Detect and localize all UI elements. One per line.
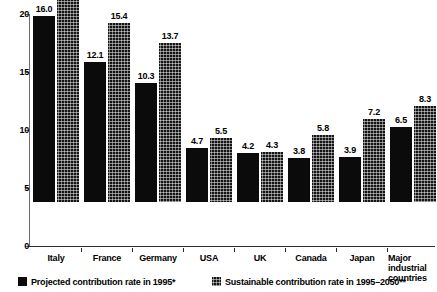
bar-value-uk-sustainable: 4.3 bbox=[266, 141, 278, 150]
bar-value-major-industrial-countries-projected: 6.5 bbox=[395, 116, 407, 125]
bar-major-industrial-countries-projected[interactable]: 6.5 bbox=[390, 127, 412, 202]
x-axis-separator bbox=[81, 248, 82, 252]
legend-label-sustainable: Sustainable contribution rate in 1995–20… bbox=[225, 277, 406, 287]
bar-italy-sustainable[interactable]: 18.5 bbox=[57, 0, 79, 202]
bar-uk-sustainable[interactable]: 4.3 bbox=[261, 152, 283, 202]
x-axis-separator bbox=[132, 248, 133, 252]
bar-major-industrial-countries-sustainable[interactable]: 8.3 bbox=[414, 106, 436, 202]
bar-japan-projected[interactable]: 3.9 bbox=[339, 157, 361, 202]
x-axis-separator bbox=[234, 248, 235, 252]
bar-value-france-sustainable: 15.4 bbox=[111, 12, 128, 21]
bar-chart: 20 15 10 5 0 16.0 18.5 12.1 bbox=[0, 0, 437, 292]
bar-value-italy-projected: 16.0 bbox=[36, 5, 53, 14]
x-axis-label-germany: Germany bbox=[133, 253, 183, 263]
bar-canada-sustainable[interactable]: 5.8 bbox=[312, 135, 334, 202]
bar-value-uk-projected: 4.2 bbox=[242, 142, 254, 151]
chart-legend: Projected contribution rate in 1995* Sus… bbox=[0, 277, 437, 292]
x-axis-label-canada: Canada bbox=[286, 253, 336, 263]
legend-swatch-solid-icon bbox=[18, 277, 27, 286]
bar-value-france-projected: 12.1 bbox=[87, 51, 104, 60]
bar-value-usa-sustainable: 5.5 bbox=[215, 127, 227, 136]
x-axis-label-italy: Italy bbox=[31, 253, 81, 263]
x-axis-separator bbox=[336, 248, 337, 252]
bar-value-germany-sustainable: 13.7 bbox=[162, 32, 179, 41]
legend-item-projected[interactable]: Projected contribution rate in 1995* bbox=[18, 277, 175, 287]
bar-canada-projected[interactable]: 3.8 bbox=[288, 158, 310, 202]
x-axis-label-japan: Japan bbox=[337, 253, 387, 263]
bar-japan-sustainable[interactable]: 7.2 bbox=[363, 119, 385, 203]
bar-value-major-industrial-countries-sustainable: 8.3 bbox=[419, 95, 431, 104]
x-axis-label-france: France bbox=[82, 253, 132, 263]
bar-value-canada-sustainable: 5.8 bbox=[317, 124, 329, 133]
bar-value-usa-projected: 4.7 bbox=[191, 137, 203, 146]
bars-layer: 16.0 18.5 12.1 15.4 10.3 13.7 4.7 bbox=[0, 0, 437, 248]
bar-value-japan-projected: 3.9 bbox=[344, 146, 356, 155]
bar-usa-sustainable[interactable]: 5.5 bbox=[210, 138, 232, 202]
bar-france-sustainable[interactable]: 15.4 bbox=[108, 23, 130, 202]
legend-item-sustainable[interactable]: Sustainable contribution rate in 1995–20… bbox=[212, 277, 406, 287]
bar-value-japan-sustainable: 7.2 bbox=[368, 108, 380, 117]
x-axis-separator bbox=[387, 248, 388, 252]
bar-france-projected[interactable]: 12.1 bbox=[84, 62, 106, 202]
legend-label-projected: Projected contribution rate in 1995* bbox=[31, 277, 175, 287]
bar-germany-projected[interactable]: 10.3 bbox=[135, 83, 157, 203]
legend-swatch-dither-icon bbox=[212, 277, 221, 286]
bar-usa-projected[interactable]: 4.7 bbox=[186, 148, 208, 203]
x-axis-separator bbox=[285, 248, 286, 252]
bar-value-canada-projected: 3.8 bbox=[293, 147, 305, 156]
x-axis-label-uk: UK bbox=[235, 253, 285, 263]
bar-germany-sustainable[interactable]: 13.7 bbox=[159, 43, 181, 202]
plot-area: 20 15 10 5 0 16.0 18.5 12.1 bbox=[0, 0, 437, 248]
bar-value-germany-projected: 10.3 bbox=[138, 72, 155, 81]
x-axis-labels: Italy France Germany USA UK Canada Japan… bbox=[0, 248, 437, 274]
x-axis-label-usa: USA bbox=[184, 253, 234, 263]
x-axis-separator bbox=[183, 248, 184, 252]
bar-uk-projected[interactable]: 4.2 bbox=[237, 153, 259, 202]
bar-italy-projected[interactable]: 16.0 bbox=[33, 16, 55, 202]
